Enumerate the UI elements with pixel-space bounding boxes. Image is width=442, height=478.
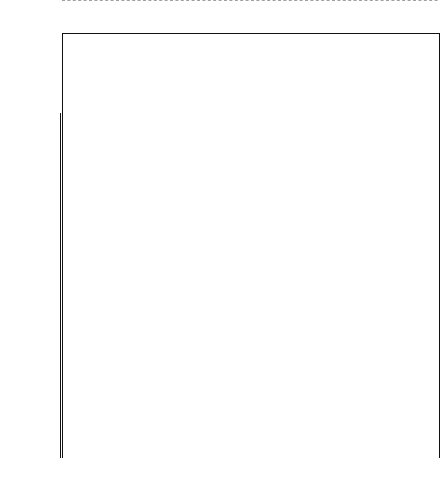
dendrogram-tree <box>0 0 442 478</box>
dendrogram-figure <box>0 0 442 478</box>
